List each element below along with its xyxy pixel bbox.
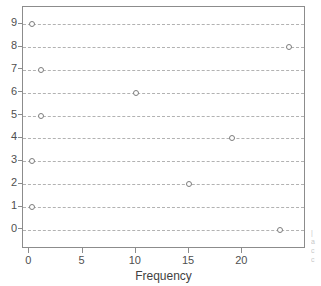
x-tick-mark-20 xyxy=(241,248,242,253)
x-axis-title: Frequency xyxy=(22,270,305,283)
data-point-2 xyxy=(186,181,192,187)
y-tick-label-7: 7 xyxy=(1,63,17,74)
data-point-6 xyxy=(133,90,139,96)
x-tick-label-15: 15 xyxy=(173,254,203,266)
y-tick-mark-5 xyxy=(18,114,22,115)
x-tick-label-0: 0 xyxy=(13,254,43,266)
data-point-5 xyxy=(38,113,44,119)
gridline-y-2 xyxy=(23,184,304,185)
gridline-y-8 xyxy=(23,47,304,48)
y-tick-mark-9 xyxy=(18,23,22,24)
y-tick-mark-4 xyxy=(18,137,22,138)
y-tick-mark-2 xyxy=(18,183,22,184)
x-tick-mark-0 xyxy=(28,248,29,253)
gridline-y-7 xyxy=(23,70,304,71)
x-tick-mark-5 xyxy=(82,248,83,253)
y-axis: 0123456789 xyxy=(0,6,17,248)
y-tick-label-9: 9 xyxy=(1,17,17,28)
data-point-7 xyxy=(38,67,44,73)
clipped-margin-line-0: | xyxy=(311,228,321,237)
y-tick-mark-8 xyxy=(18,46,22,47)
data-point-8 xyxy=(286,44,292,50)
clipped-margin-line-2: c xyxy=(311,246,321,255)
gridline-y-3 xyxy=(23,161,304,162)
clipped-margin-text: |acc xyxy=(311,228,321,264)
x-tick-label-20: 20 xyxy=(226,254,256,266)
y-tick-label-3: 3 xyxy=(1,154,17,165)
x-tick-mark-10 xyxy=(135,248,136,253)
y-tick-mark-1 xyxy=(18,206,22,207)
y-tick-label-5: 5 xyxy=(1,109,17,120)
y-tick-mark-7 xyxy=(18,68,22,69)
data-point-1 xyxy=(29,204,35,210)
y-tick-label-1: 1 xyxy=(1,200,17,211)
data-point-3 xyxy=(29,158,35,164)
y-tick-mark-3 xyxy=(18,160,22,161)
plot-area xyxy=(22,6,305,248)
y-tick-label-0: 0 xyxy=(1,223,17,234)
gridline-y-9 xyxy=(23,24,304,25)
clipped-margin-line-3: c xyxy=(311,255,321,264)
gridline-y-6 xyxy=(23,93,304,94)
dot-plot-chart: 0123456789 Frequency 05101520 |acc xyxy=(0,0,321,286)
gridline-y-4 xyxy=(23,138,304,139)
y-tick-label-6: 6 xyxy=(1,86,17,97)
y-tick-mark-0 xyxy=(18,228,22,229)
gridline-y-1 xyxy=(23,207,304,208)
data-point-9 xyxy=(29,21,35,27)
x-tick-mark-15 xyxy=(188,248,189,253)
gridline-y-5 xyxy=(23,116,304,117)
y-tick-label-2: 2 xyxy=(1,177,17,188)
clipped-margin-line-1: a xyxy=(311,237,321,246)
x-tick-label-5: 5 xyxy=(67,254,97,266)
y-tick-label-4: 4 xyxy=(1,131,17,142)
y-tick-mark-6 xyxy=(18,91,22,92)
data-point-0 xyxy=(277,227,283,233)
y-tick-label-8: 8 xyxy=(1,40,17,51)
gridline-y-0 xyxy=(23,230,304,231)
x-axis: Frequency 05101520 xyxy=(22,248,305,286)
x-tick-label-10: 10 xyxy=(120,254,150,266)
data-point-4 xyxy=(229,135,235,141)
